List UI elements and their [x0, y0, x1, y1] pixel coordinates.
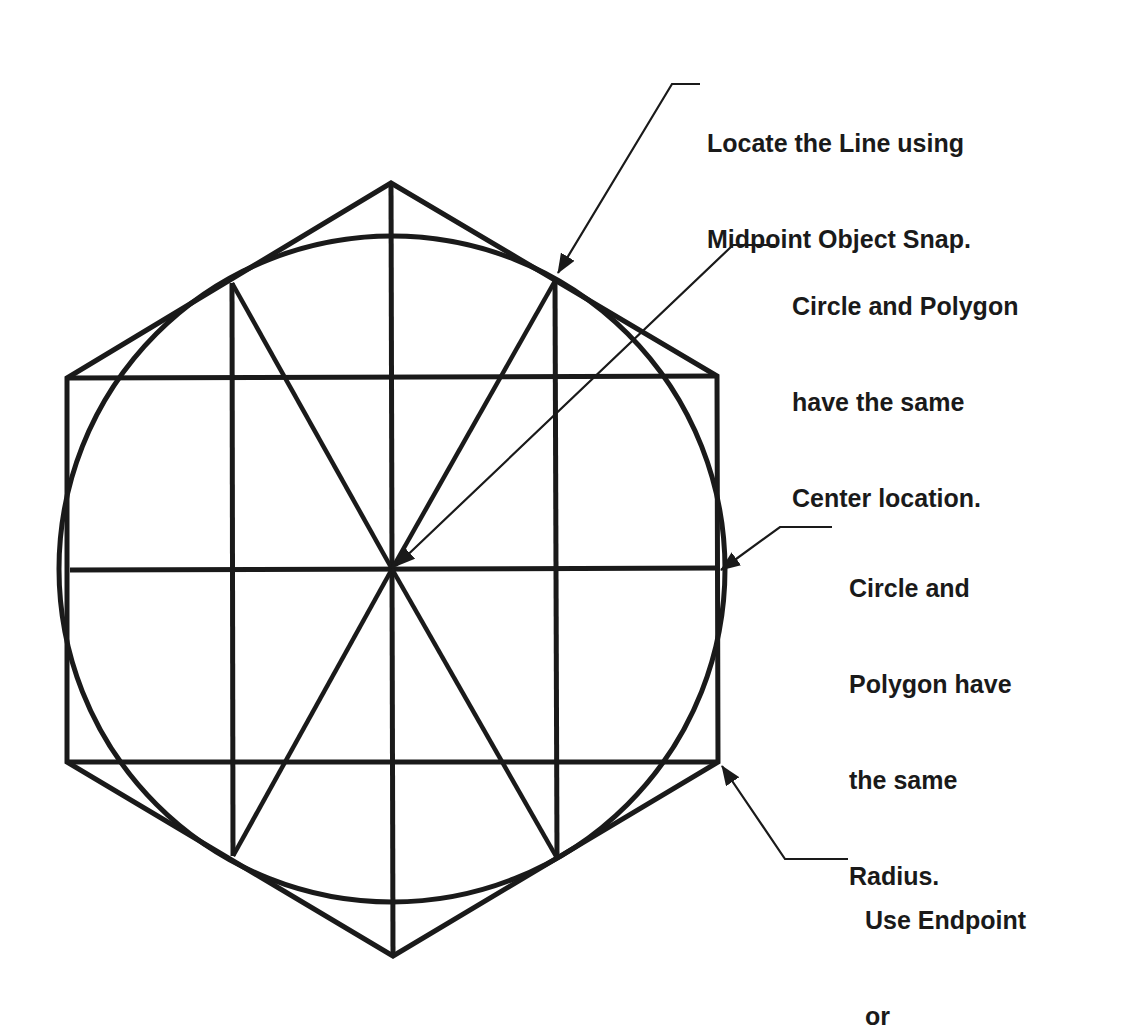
callout-line: Circle and	[849, 572, 1012, 604]
diagonal-construction-line	[392, 281, 555, 569]
callout-endpoint-text: Use Endpoint or Intersection Object Snap…	[865, 840, 1026, 1035]
leader-arrow-midpoint	[558, 84, 700, 273]
callout-line: Polygon have	[849, 668, 1012, 700]
callout-line: Circle and Polygon	[792, 290, 1018, 322]
diagonal-construction-line	[233, 569, 392, 856]
vertical-construction-line	[555, 281, 557, 858]
callout-line: the same	[849, 764, 1012, 796]
callout-line: Locate the Line using	[707, 127, 971, 159]
diagonal-construction-line	[232, 283, 392, 569]
geometry-group	[59, 183, 725, 956]
vertical-construction-line	[232, 283, 233, 856]
callout-line: or	[865, 1000, 1026, 1032]
leader-arrow-endpoint	[722, 766, 848, 859]
callout-line: Use Endpoint	[865, 904, 1026, 936]
callout-line: have the same	[792, 386, 1018, 418]
diagonal-construction-line	[392, 569, 557, 858]
